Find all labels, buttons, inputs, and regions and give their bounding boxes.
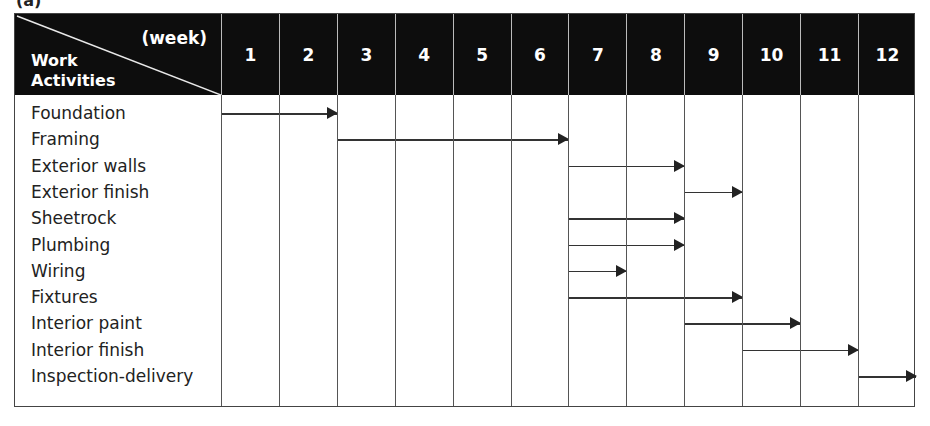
grid-line <box>684 95 685 406</box>
grid-line <box>742 95 743 406</box>
activity-label: Foundation <box>31 100 126 126</box>
grid-line <box>453 95 454 406</box>
week-header-3: 3 <box>337 14 395 95</box>
week-axis-label: (week) <box>141 28 207 48</box>
activity-label: Exterior finish <box>31 179 149 205</box>
activity-label: Interior paint <box>31 310 142 336</box>
activity-label: Framing <box>31 126 100 152</box>
grid-line <box>221 95 222 406</box>
week-header-10: 10 <box>742 14 800 95</box>
grid-line <box>395 95 396 406</box>
activity-label: Inspection-delivery <box>31 363 193 389</box>
activity-label: Wiring <box>31 258 85 284</box>
activity-bar <box>684 192 742 194</box>
activity-bar <box>568 271 626 273</box>
week-header-8: 8 <box>626 14 684 95</box>
week-header-2: 2 <box>279 14 337 95</box>
week-header-6: 6 <box>511 14 569 95</box>
week-header-11: 11 <box>800 14 858 95</box>
activities-label-line2: Activities <box>31 71 115 91</box>
activity-label: Fixtures <box>31 284 98 310</box>
corner-header-cell: (week) Work Activities <box>15 14 221 95</box>
chart-header: (week) Work Activities 123456789101112 <box>15 14 914 95</box>
arrow-head-icon <box>906 370 917 382</box>
activities-axis-label: Work Activities <box>31 51 115 91</box>
week-header-4: 4 <box>395 14 453 95</box>
chart-body: FoundationFramingExterior wallsExterior … <box>15 95 914 406</box>
week-header-12: 12 <box>858 14 916 95</box>
grid-line <box>337 95 338 406</box>
grid-line <box>511 95 512 406</box>
grid-line <box>568 95 569 406</box>
activity-label: Interior finish <box>31 337 144 363</box>
week-header-9: 9 <box>684 14 742 95</box>
week-header-5: 5 <box>453 14 511 95</box>
grid-line <box>858 95 859 406</box>
grid-line <box>279 95 280 406</box>
activity-label: Sheetrock <box>31 205 116 231</box>
grid-line <box>800 95 801 406</box>
week-header-1: 1 <box>221 14 279 95</box>
gantt-chart: (week) Work Activities 123456789101112 F… <box>14 13 915 407</box>
grid-line <box>626 95 627 406</box>
activity-bar <box>858 376 916 378</box>
figure-label: (a) <box>16 0 41 10</box>
activity-bar <box>568 297 742 299</box>
week-header-7: 7 <box>568 14 626 95</box>
activity-label: Plumbing <box>31 232 110 258</box>
activities-label-line1: Work <box>31 51 115 71</box>
activity-label: Exterior walls <box>31 153 146 179</box>
